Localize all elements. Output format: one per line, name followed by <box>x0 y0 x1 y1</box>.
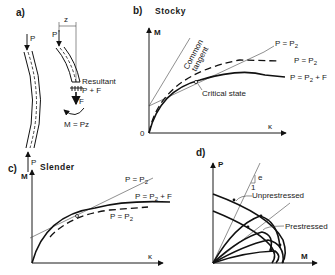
b-origin-label: 0 <box>140 129 145 138</box>
panel-a: a) P P z P <box>16 7 117 172</box>
slope-triangle-icon <box>251 175 255 183</box>
moment-label: M = Pz <box>64 120 89 129</box>
load-p-right: P <box>52 30 57 39</box>
c-solid-label: P = P2 + F <box>135 192 172 202</box>
panel-b-label: b) <box>133 5 142 16</box>
panel-b-title: Stocky <box>155 6 186 16</box>
b-x-axis-label: κ <box>268 122 273 131</box>
panel-d: d) P M e 1 Unprestressed Prestressed <box>196 147 328 263</box>
c-x-axis-label: κ <box>148 252 153 261</box>
prestressed-label: Prestressed <box>285 222 328 231</box>
b-dashed-label: P = P2 <box>294 56 318 66</box>
half-column-diagram: z P Resultant P + F F M = Pz <box>52 15 117 129</box>
b-thin-label: P = P2 <box>275 39 299 49</box>
c-dashed-label: P = P2 <box>110 212 134 222</box>
unprestressed-label: Unprestressed <box>252 191 304 200</box>
eccentricity-z: z <box>64 15 68 24</box>
resultant-label: Resultant <box>82 77 117 86</box>
load-path-1 <box>213 216 280 263</box>
column-left-edge <box>24 52 33 148</box>
panel-b: b) Stocky M κ 0 Common tangent Critical … <box>133 5 327 138</box>
d-x-axis-label: M <box>301 252 308 261</box>
panel-a-label: a) <box>16 7 25 18</box>
panel-c: c) Slender M κ P = P2 P = P2 + F P = P2 <box>8 162 172 263</box>
panel-d-label: d) <box>196 147 205 158</box>
panel-c-label: c) <box>8 163 17 174</box>
b-solid-label: P = P2 + F <box>290 73 327 83</box>
c-dashed-curve <box>50 207 148 237</box>
moment-arrow-icon <box>64 108 84 115</box>
resultant-value: P + F <box>82 86 101 95</box>
load-p-top: P <box>30 34 35 43</box>
load-p-bottom: P <box>31 158 36 167</box>
c-thin-label: P = P2 <box>125 175 149 185</box>
force-f-label: F <box>79 97 84 106</box>
c-critical-marker-icon <box>76 215 79 218</box>
d-y-axis-label: P <box>218 160 224 169</box>
critical-state-label: Critical state <box>202 89 247 98</box>
b-solid-curve <box>149 72 285 133</box>
figure-canvas: a) P P z P <box>0 0 335 275</box>
full-column-diagram: P P <box>24 34 41 172</box>
panel-c-title: Slender <box>40 162 75 172</box>
critical-state-marker-icon <box>194 80 197 83</box>
slope-e-label: e <box>258 173 263 182</box>
c-y-axis-label: M <box>21 172 28 181</box>
b-y-axis-label: M <box>154 28 161 37</box>
